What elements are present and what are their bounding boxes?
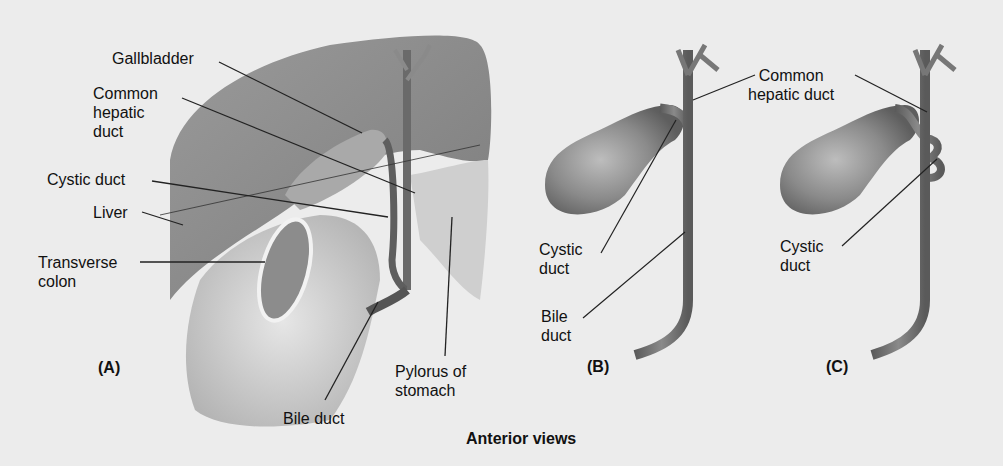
label-pylorus: Pylorus of stomach — [395, 362, 466, 400]
label-common-hepatic-duct-bc: Common hepatic duct — [748, 66, 834, 104]
label-transverse-colon: Transverse colon — [38, 253, 117, 291]
label-bile-duct-a: Bile duct — [283, 409, 344, 428]
label-cystic-duct-c: Cystic duct — [780, 237, 824, 275]
gallbladder-c — [780, 105, 919, 214]
label-cystic-duct-b: Cystic duct — [539, 240, 583, 278]
hepatic-duct-c — [872, 50, 925, 355]
figure-caption: Anterior views — [466, 430, 576, 448]
panel-label-a: (A) — [98, 359, 120, 377]
gallbladder-b — [545, 105, 684, 214]
hepatic-duct-b — [635, 50, 688, 355]
label-liver: Liver — [93, 203, 128, 222]
label-common-hepatic-duct-a: Common hepatic duct — [93, 84, 158, 141]
panel-label-c: (C) — [826, 358, 848, 376]
anatomy-illustration — [0, 0, 1003, 466]
label-bile-duct-b: Bile duct — [541, 307, 571, 345]
label-cystic-duct-a: Cystic duct — [47, 170, 125, 189]
label-gallbladder: Gallbladder — [112, 49, 194, 68]
panel-label-b: (B) — [587, 358, 609, 376]
